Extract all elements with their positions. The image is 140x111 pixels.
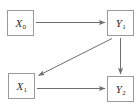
causal-graph-diagram: X0 Y1 X1 Y2 (0, 0, 140, 111)
node-y1: Y1 (107, 10, 134, 36)
node-y2-label: Y2 (116, 84, 126, 95)
node-x1: X1 (8, 73, 35, 99)
node-x0-label: X0 (15, 18, 25, 29)
node-y1-label: Y1 (116, 18, 126, 29)
edge-y1-to-x1 (39, 39, 113, 76)
node-x0: X0 (7, 10, 34, 36)
node-y2: Y2 (107, 76, 134, 102)
node-x1-label: X1 (16, 81, 26, 92)
